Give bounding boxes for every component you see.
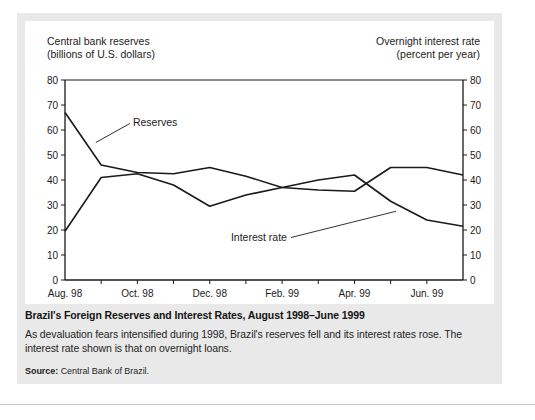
- svg-text:0: 0: [470, 275, 476, 286]
- caption-source: Source: Central Bank of Brazil.: [25, 366, 494, 376]
- svg-text:Jun. 99: Jun. 99: [410, 288, 443, 299]
- footer-divider: [0, 404, 535, 405]
- svg-text:20: 20: [47, 225, 59, 236]
- svg-text:Apr. 99: Apr. 99: [339, 288, 371, 299]
- line-chart: 0102030405060708001020304050607080Aug. 9…: [25, 21, 494, 304]
- svg-text:Dec. 98: Dec. 98: [192, 288, 227, 299]
- svg-text:50: 50: [47, 150, 59, 161]
- svg-text:40: 40: [47, 175, 59, 186]
- svg-text:10: 10: [470, 250, 482, 261]
- svg-text:Feb. 99: Feb. 99: [265, 288, 299, 299]
- svg-text:Oct. 98: Oct. 98: [121, 288, 154, 299]
- svg-text:30: 30: [470, 200, 482, 211]
- svg-text:0: 0: [52, 275, 58, 286]
- caption-block: Brazil's Foreign Reserves and Interest R…: [25, 309, 494, 376]
- figure-panel: Central bank reserves (billions of U.S. …: [17, 13, 502, 384]
- caption-body: As devaluation fears intensified during …: [25, 327, 494, 355]
- svg-text:10: 10: [47, 250, 59, 261]
- svg-text:80: 80: [470, 75, 482, 86]
- svg-text:Interest rate: Interest rate: [231, 231, 287, 243]
- svg-text:60: 60: [47, 125, 59, 136]
- caption-title: Brazil's Foreign Reserves and Interest R…: [25, 309, 494, 321]
- svg-text:40: 40: [470, 175, 482, 186]
- svg-text:60: 60: [470, 125, 482, 136]
- svg-text:30: 30: [47, 200, 59, 211]
- chart-card: Central bank reserves (billions of U.S. …: [25, 21, 494, 304]
- svg-text:20: 20: [470, 225, 482, 236]
- svg-text:70: 70: [47, 100, 59, 111]
- svg-text:Aug. 98: Aug. 98: [48, 288, 83, 299]
- source-label: Source:: [25, 366, 58, 376]
- svg-text:Reserves: Reserves: [133, 116, 177, 128]
- svg-text:50: 50: [470, 150, 482, 161]
- svg-text:70: 70: [470, 100, 482, 111]
- source-text: Central Bank of Brazil.: [61, 366, 149, 376]
- svg-text:80: 80: [47, 75, 59, 86]
